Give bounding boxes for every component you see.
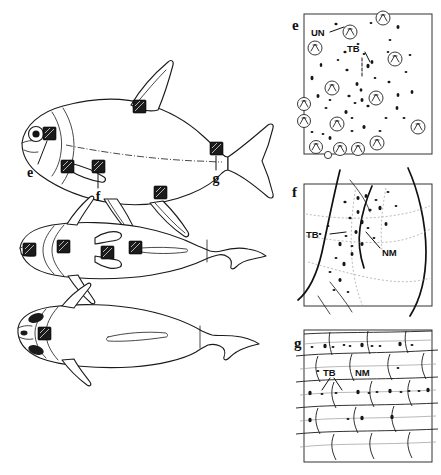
panel-g-label-nm: NM [355, 367, 370, 378]
figure-svg: e f g [0, 0, 441, 475]
site-marker-g [210, 142, 223, 155]
site-marker-f-flank [92, 160, 105, 173]
panel-f-label-nm: NM [382, 247, 397, 258]
panel-e-label-tb: TB [347, 43, 360, 54]
figure-canvas: e f g [0, 0, 441, 475]
ventral-marker-isthmus [38, 327, 51, 340]
panel-f-grid-5 [381, 188, 386, 250]
panel-e-leader-un [330, 27, 344, 32]
site-marker-dorsalfin [133, 100, 146, 113]
panel-g-scale-boundaries [316, 331, 426, 460]
panel-g-letter: g [294, 335, 302, 351]
site-label-e: e [27, 165, 33, 180]
dorsal-marker-flank [129, 241, 142, 254]
panel-e: e [292, 11, 432, 159]
dorsal-marker-head [23, 243, 36, 256]
panel-f-label-tb: TB [306, 229, 319, 240]
fish-pupil [32, 130, 39, 137]
panel-e-label-un: UN [311, 27, 325, 38]
panel-f-contour-right [408, 168, 426, 316]
panel-e-leader-tb-1 [365, 52, 370, 62]
panel-e-taste-buds [311, 22, 414, 140]
panel-f-letter: f [292, 184, 298, 200]
site-label-f: f [96, 189, 101, 204]
panel-g: g [294, 330, 438, 462]
ventral-mark-snout [21, 331, 28, 336]
dorsal-view [20, 196, 266, 304]
site-marker-e [43, 127, 56, 140]
site-marker-analfin [154, 186, 167, 199]
ventral-view [18, 283, 259, 386]
panel-f-grid-3 [308, 262, 430, 282]
panel-f-leader-tb [330, 232, 346, 234]
panel-e-letter: e [292, 17, 299, 33]
panel-f-contour-mid [359, 186, 372, 268]
lateral-view: e f g [22, 61, 273, 238]
panel-f-leader-nm [366, 232, 380, 248]
dorsal-marker-nape [57, 240, 70, 253]
panel-g-scale-rows [296, 331, 438, 447]
panel-f-grid-4 [351, 186, 364, 308]
dorsal-marker-pectoral [101, 246, 114, 259]
site-marker-f-pectoral [61, 160, 74, 173]
panel-g-frame [304, 330, 432, 462]
panel-f: f [292, 168, 432, 316]
site-label-g: g [213, 171, 220, 186]
panel-g-label-tb: TB [323, 367, 336, 378]
